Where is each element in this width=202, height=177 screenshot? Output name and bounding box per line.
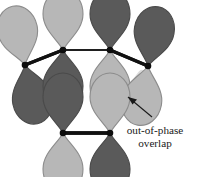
annotation-line-2: overlap	[138, 137, 172, 149]
node-6	[107, 130, 114, 137]
orbital-overlap-figure: out-of-phase overlap	[0, 0, 202, 177]
annotation-line-1: out-of-phase	[127, 124, 184, 136]
node-3	[107, 47, 114, 54]
node-2	[60, 47, 67, 54]
node-4	[145, 63, 152, 70]
node-1	[22, 62, 29, 69]
node-5	[60, 130, 67, 137]
